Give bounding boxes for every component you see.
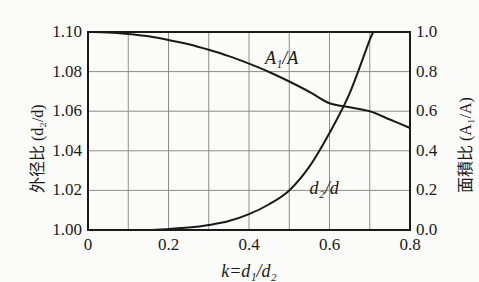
curve-diameter-ratio <box>88 32 374 230</box>
y-axis-title-right: 面積比 (A₁/A) <box>458 97 474 193</box>
xtick-2: 0.4 <box>229 236 269 253</box>
ytick-right-2: 0.4 <box>416 142 462 159</box>
ytick-right-1: 0.2 <box>416 181 462 198</box>
ytick-right-3: 0.6 <box>416 102 462 119</box>
curve-label-area-ratio: A₁/A <box>265 49 298 67</box>
ytick-right-4: 0.8 <box>416 63 462 80</box>
xtick-4: 0.8 <box>390 236 430 253</box>
xtick-1: 0.2 <box>149 236 189 253</box>
ytick-right-5: 1.0 <box>416 23 462 40</box>
ytick-left-4: 1.08 <box>24 63 82 80</box>
x-axis-title: k=d₁/d₂ <box>139 262 359 280</box>
xtick-0: 0 <box>68 236 108 253</box>
curve-label-diameter-ratio: d₂/d <box>309 179 338 197</box>
chart-figure: 1.10 1.08 1.06 1.04 1.02 1.00 1.0 0.8 0.… <box>0 0 479 282</box>
ytick-left-5: 1.10 <box>24 23 82 40</box>
y-axis-title-left: 外径比 (d₂/d) <box>30 104 46 193</box>
xtick-3: 0.6 <box>310 236 350 253</box>
